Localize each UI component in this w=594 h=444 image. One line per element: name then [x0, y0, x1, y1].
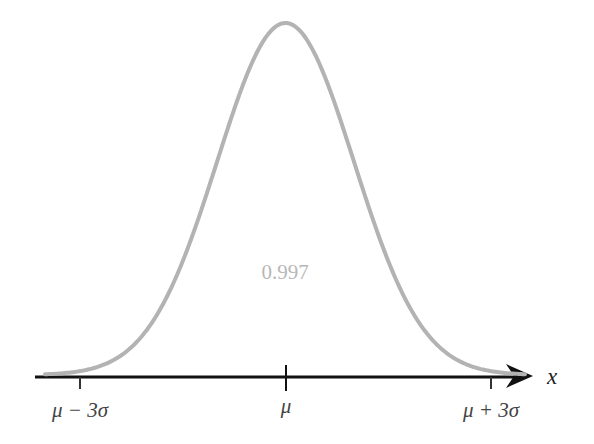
tick-label-mu-minus-3sigma: μ − 3σ: [51, 398, 110, 422]
x-axis-label: x: [546, 364, 558, 389]
tick-label-mu-plus-3sigma: μ + 3σ: [462, 398, 521, 422]
area-probability-label: 0.997: [261, 260, 308, 284]
normal-distribution-diagram: μ − 3σ μ μ + 3σ x 0.997: [0, 0, 594, 444]
tick-label-mu: μ: [280, 394, 292, 418]
bell-curve: [45, 23, 525, 374]
